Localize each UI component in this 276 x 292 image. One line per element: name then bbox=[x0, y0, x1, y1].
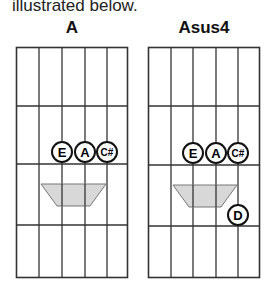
barre-shape bbox=[173, 185, 237, 207]
svg-text:D: D bbox=[233, 208, 242, 223]
note-marker-c-sharp: C# bbox=[228, 143, 248, 163]
svg-text:E: E bbox=[189, 146, 198, 161]
chord-diagram-a bbox=[16, 47, 128, 278]
note-marker-a: A bbox=[206, 143, 226, 163]
barre-shape bbox=[41, 184, 106, 206]
note-marker-e: E bbox=[52, 142, 72, 162]
chord-diagrams: E A C# E A C# D bbox=[0, 0, 276, 292]
note-marker-e: E bbox=[183, 143, 203, 163]
note-marker-c-sharp: C# bbox=[97, 142, 117, 162]
svg-text:A: A bbox=[211, 146, 221, 161]
note-markers-a: E A C# bbox=[52, 142, 117, 162]
note-marker-a: A bbox=[75, 142, 95, 162]
svg-text:C#: C# bbox=[232, 148, 245, 159]
svg-text:E: E bbox=[58, 145, 67, 160]
svg-text:C#: C# bbox=[101, 147, 114, 158]
svg-text:A: A bbox=[80, 145, 90, 160]
note-marker-d: D bbox=[228, 205, 248, 225]
